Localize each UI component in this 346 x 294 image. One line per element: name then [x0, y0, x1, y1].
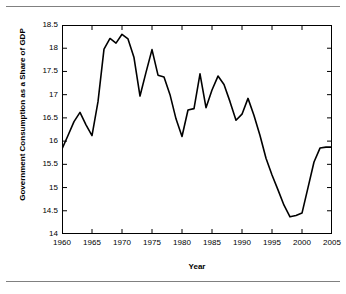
y-axis-tick-labels: 1414.51515.51616.51717.51818.5	[30, 25, 58, 234]
x-tick-label-1980: 1980	[173, 239, 191, 247]
y-tick-label-17: 17	[49, 91, 58, 99]
chart-figure: Government Consumption as a Share of GDP…	[0, 0, 346, 294]
y-tick-label-14: 14	[49, 230, 58, 238]
x-tick-label-2005: 2005	[323, 239, 341, 247]
y-tick-label-18: 18	[49, 44, 58, 52]
y-tick-label-16.5: 16.5	[42, 114, 58, 122]
x-tick-label-1990: 1990	[233, 239, 251, 247]
y-tick-label-14.5: 14.5	[42, 207, 58, 215]
x-axis-tick-labels: 1960196519701975198019851990199520002005	[62, 239, 332, 251]
y-tick-label-15.5: 15.5	[42, 160, 58, 168]
x-tick-label-1960: 1960	[53, 239, 71, 247]
y-tick-label-15: 15	[49, 184, 58, 192]
data-line-series-0	[62, 34, 332, 217]
line-series-svg	[62, 25, 332, 234]
x-tick-label-1970: 1970	[113, 239, 131, 247]
x-axis-title: Year	[62, 262, 332, 271]
plot-area	[62, 25, 332, 234]
y-tick-label-18.5: 18.5	[42, 21, 58, 29]
x-tick-label-1985: 1985	[203, 239, 221, 247]
y-axis-title: Government Consumption as a Share of GDP	[18, 15, 27, 215]
y-tick-label-16: 16	[49, 137, 58, 145]
x-tick-label-2000: 2000	[293, 239, 311, 247]
x-tick-label-1965: 1965	[83, 239, 101, 247]
x-tick-label-1995: 1995	[263, 239, 281, 247]
y-tick-label-17.5: 17.5	[42, 67, 58, 75]
top-divider-rule	[6, 6, 340, 7]
bottom-divider-rule	[6, 281, 340, 282]
x-tick-label-1975: 1975	[143, 239, 161, 247]
